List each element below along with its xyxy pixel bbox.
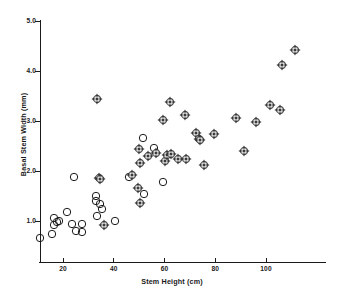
data-point-circle-diamond [289,43,302,56]
scatter-plot-figure: 1.02.03.04.05.020406080100 Stem Height (… [0,0,344,294]
data-point-circle-diamond [125,168,138,181]
data-point-circle-diamond [229,112,242,125]
data-point-circle-diamond [157,113,170,126]
data-point-circle-diamond [93,172,106,185]
data-point-circle-open [110,215,121,226]
x-axis-line [39,262,326,263]
y-axis-tick-label: 1.0 [0,217,36,224]
data-point-circle-diamond [197,158,210,171]
x-axis-tick [215,258,216,263]
y-axis-title: Basal Stem Width (mm) [19,60,28,210]
data-point-circle-open [69,172,80,183]
x-axis-tick-label: 60 [150,265,180,272]
x-axis-tick-label: 40 [99,265,129,272]
x-axis-tick [63,258,64,263]
data-point-circle-diamond [131,182,144,195]
data-point-circle-diamond [134,197,147,210]
data-point-circle-diamond [178,108,191,121]
data-point-circle-open [158,176,169,187]
data-point-circle-diamond [238,144,251,157]
data-point-circle-open [35,233,46,244]
data-point-circle-diamond [276,58,289,71]
x-axis-tick [164,258,165,263]
data-point-circle-diamond [194,134,207,147]
data-point-circle-diamond [207,127,220,140]
x-axis-tick [113,258,114,263]
y-axis-line [40,20,41,263]
x-axis-tick-label: 20 [48,265,78,272]
y-axis-tick-label: 5.0 [0,17,36,24]
x-axis-tick [266,258,267,263]
x-axis-title: Stem Height (cm) [0,277,344,286]
data-point-circle-diamond [91,92,104,105]
data-point-circle-open [77,218,88,229]
data-point-circle-open [97,203,108,214]
x-axis-tick-label: 80 [200,265,230,272]
data-point-circle-open [46,229,57,240]
data-point-circle-diamond [163,95,176,108]
data-point-circle-diamond [97,218,110,231]
data-point-circle-diamond [273,104,286,117]
data-point-circle-open [61,207,72,218]
data-point-circle-diamond [180,153,193,166]
data-point-circle-diamond [249,116,262,129]
x-axis-tick-label: 100 [251,265,281,272]
